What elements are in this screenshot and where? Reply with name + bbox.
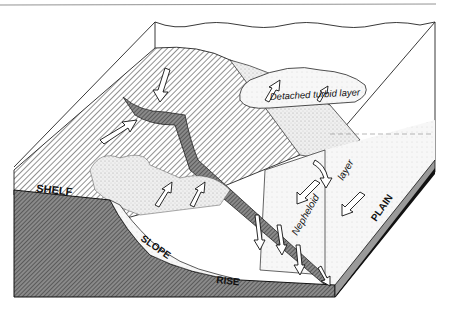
continental-margin-block-diagram: SHELF SLOPE RISE PLAIN Detached turbid l… bbox=[0, 0, 452, 313]
top-rule bbox=[0, 4, 436, 5]
